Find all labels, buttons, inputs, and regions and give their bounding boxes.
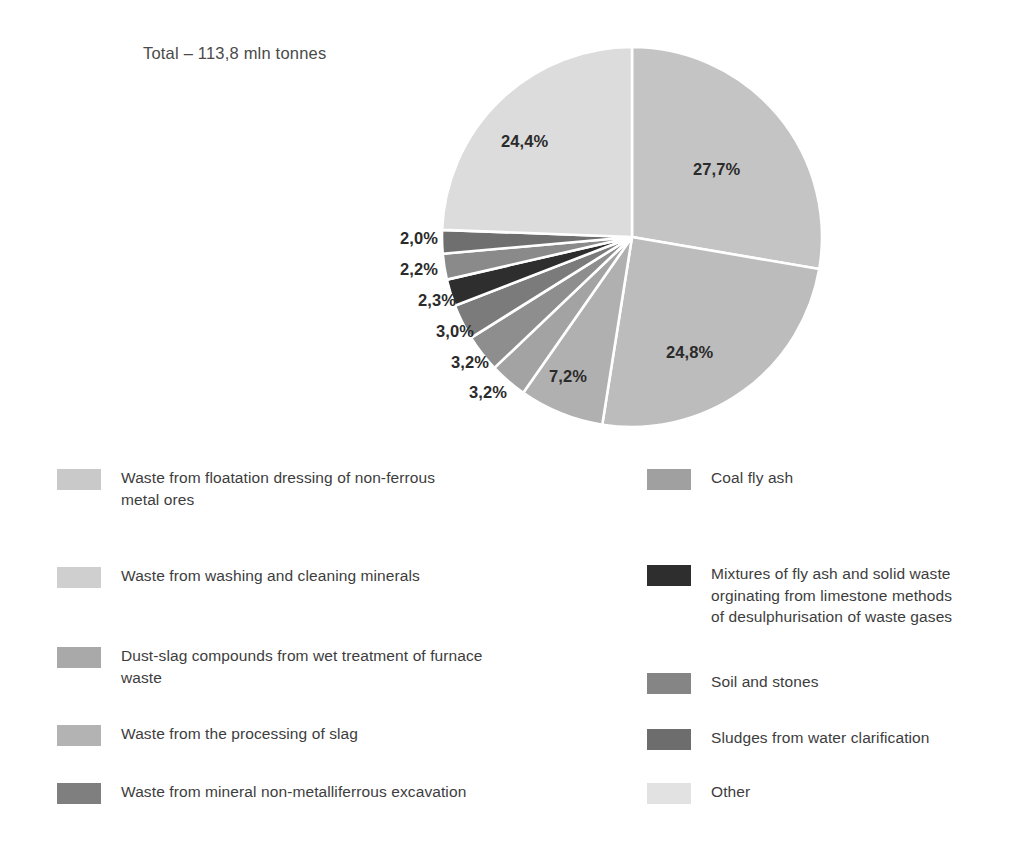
pie-slice-value-label: 24,4% bbox=[501, 132, 548, 151]
legend-color-swatch bbox=[647, 565, 691, 586]
legend-color-swatch bbox=[57, 725, 101, 746]
waste-composition-pie-figure: Total – 113,8 mln tonnes 27,7%24,8%7,2%3… bbox=[0, 0, 1030, 848]
legend-item[interactable]: Mixtures of fly ash and solid waste orgi… bbox=[647, 563, 952, 628]
legend-item-label: Waste from mineral non-metalliferrous ex… bbox=[121, 781, 466, 803]
pie-slice bbox=[632, 47, 822, 269]
legend-item[interactable]: Dust-slag compounds from wet treatment o… bbox=[57, 645, 483, 688]
legend-item-label: Mixtures of fly ash and solid waste orgi… bbox=[711, 563, 952, 628]
pie-slice-value-label: 27,7% bbox=[693, 160, 740, 179]
pie-slice bbox=[602, 237, 819, 427]
pie-slice-value-label: 3,2% bbox=[469, 383, 507, 402]
legend-item[interactable]: Waste from floatation dressing of non-fe… bbox=[57, 467, 435, 510]
pie-slice-value-label: 2,2% bbox=[400, 260, 438, 279]
pie-slice-value-label: 3,2% bbox=[451, 353, 489, 372]
legend-color-swatch bbox=[57, 647, 101, 668]
legend-item[interactable]: Sludges from water clarification bbox=[647, 727, 930, 750]
legend-color-swatch bbox=[647, 469, 691, 490]
legend-color-swatch bbox=[647, 783, 691, 804]
legend-item[interactable]: Waste from mineral non-metalliferrous ex… bbox=[57, 781, 466, 804]
pie-slice-value-label: 24,8% bbox=[666, 343, 713, 362]
legend-item[interactable]: Waste from washing and cleaning minerals bbox=[57, 565, 420, 588]
legend-item-label: Waste from washing and cleaning minerals bbox=[121, 565, 420, 587]
legend-item-label: Waste from floatation dressing of non-fe… bbox=[121, 467, 435, 510]
chart-legend: Waste from floatation dressing of non-fe… bbox=[0, 455, 1030, 845]
pie-slice-value-label: 2,3% bbox=[418, 291, 456, 310]
pie-slice-value-label: 2,0% bbox=[400, 229, 438, 248]
legend-item-label: Sludges from water clarification bbox=[711, 727, 930, 749]
legend-item[interactable]: Waste from the processing of slag bbox=[57, 723, 358, 746]
legend-color-swatch bbox=[57, 469, 101, 490]
legend-item[interactable]: Coal fly ash bbox=[647, 467, 793, 490]
legend-item[interactable]: Soil and stones bbox=[647, 671, 819, 694]
legend-color-swatch bbox=[57, 783, 101, 804]
chart-total-label: Total – 113,8 mln tonnes bbox=[143, 44, 326, 63]
pie-slice-group bbox=[442, 47, 822, 427]
pie-slice-value-label: 7,2% bbox=[549, 367, 587, 386]
legend-color-swatch bbox=[647, 729, 691, 750]
pie-slice-value-label: 3,0% bbox=[436, 322, 474, 341]
legend-item-label: Waste from the processing of slag bbox=[121, 723, 358, 745]
legend-color-swatch bbox=[57, 567, 101, 588]
legend-item-label: Coal fly ash bbox=[711, 467, 793, 489]
legend-item-label: Dust-slag compounds from wet treatment o… bbox=[121, 645, 483, 688]
legend-item[interactable]: Other bbox=[647, 781, 750, 804]
legend-item-label: Other bbox=[711, 781, 750, 803]
legend-color-swatch bbox=[647, 673, 691, 694]
legend-item-label: Soil and stones bbox=[711, 671, 819, 693]
